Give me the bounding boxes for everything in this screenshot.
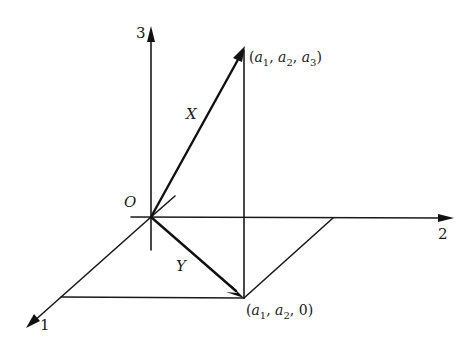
axis-1-label: 1	[40, 318, 50, 333]
vector-y-label: Y	[176, 259, 186, 274]
axis-1-arrowhead	[26, 314, 40, 328]
vector-x-label: X	[186, 107, 197, 122]
axis-2-label: 2	[438, 227, 448, 242]
origin-label: O	[124, 195, 136, 210]
vector-y	[151, 217, 236, 291]
projection-line-axis2	[244, 218, 333, 298]
axis-2-arrowhead	[438, 214, 454, 222]
axis-3-label: 3	[136, 26, 146, 41]
vector-x	[151, 56, 240, 217]
axis-3-arrowhead	[147, 26, 155, 42]
point-bottom-label: (a1, a2, 0)	[246, 303, 313, 321]
vector-diagram	[0, 0, 473, 345]
projection-line-axis1	[61, 297, 244, 298]
axis-1-negative-stub	[151, 196, 175, 217]
axis-1	[33, 217, 151, 322]
point-top-label: (a1, a2, a3)	[249, 50, 322, 68]
axis-2	[131, 217, 446, 218]
